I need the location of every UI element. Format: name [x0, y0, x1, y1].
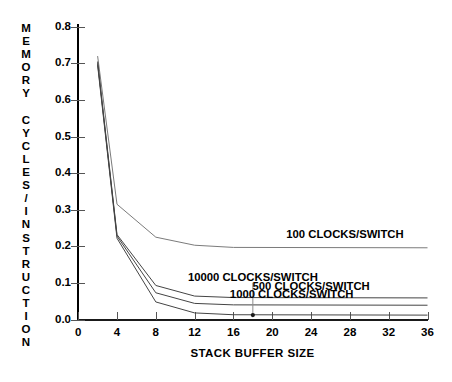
series-label: 1000 CLOCKS/SWITCH	[230, 288, 354, 300]
series-line	[98, 62, 428, 298]
plot-lines	[0, 0, 452, 382]
annotation-marker-dot	[251, 313, 255, 317]
chart-figure: MEMORY.CYCLES/INSTRUCTION 0.00.10.20.30.…	[0, 0, 452, 382]
series-line	[98, 56, 428, 248]
series-label: 100 CLOCKS/SWITCH	[286, 228, 403, 240]
series-line	[98, 63, 428, 305]
